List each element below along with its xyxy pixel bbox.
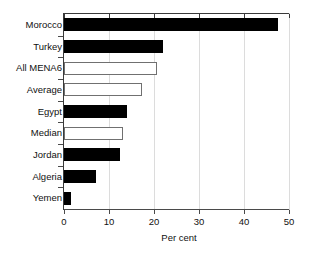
y-tick-left: [58, 57, 63, 58]
category-label-yemen: Yemen: [33, 193, 62, 203]
x-axis-title: Per cent: [0, 232, 310, 243]
y-tick-left: [58, 187, 63, 188]
category-label-egypt: Egypt: [38, 107, 62, 117]
bar-row: [64, 40, 289, 53]
x-tick-bottom: [244, 210, 245, 214]
bar-egypt: [64, 105, 127, 118]
x-tick-bottom: [109, 210, 110, 214]
bar-row: [64, 18, 289, 31]
y-tick-left: [58, 122, 63, 123]
category-label-jordan: Jordan: [33, 150, 62, 160]
category-label-morocco: Morocco: [26, 20, 62, 30]
y-tick-left: [58, 101, 63, 102]
x-tick-top: [64, 14, 65, 18]
bar-algeria: [64, 170, 96, 183]
x-tick-top: [199, 14, 200, 18]
x-axis-title-label: Per cent: [161, 232, 196, 243]
x-tick-label: 10: [94, 216, 124, 227]
x-tick-top: [289, 14, 290, 18]
bar-row: [64, 105, 289, 118]
bar-jordan: [64, 148, 120, 161]
gridline: [289, 14, 290, 209]
x-tick-top: [244, 14, 245, 18]
x-tick-top: [109, 14, 110, 18]
x-tick-bottom: [154, 210, 155, 214]
bar-chart-figure: 01020304050MoroccoTurkeyAll MENA6Average…: [0, 0, 310, 253]
x-tick-label: 0: [49, 216, 79, 227]
category-label-median: Median: [31, 128, 62, 138]
bar-median: [64, 127, 123, 140]
y-tick-left: [58, 144, 63, 145]
x-tick-bottom: [199, 210, 200, 214]
bar-row: [64, 192, 289, 205]
x-tick-top: [154, 14, 155, 18]
bar-morocco: [64, 18, 278, 31]
bar-row: [64, 170, 289, 183]
bar-row: [64, 148, 289, 161]
bar-row: [64, 83, 289, 96]
category-label-all-mena6: All MENA6: [16, 63, 62, 73]
y-tick-left: [58, 36, 63, 37]
plot-area: [64, 14, 289, 209]
y-tick-left: [58, 166, 63, 167]
category-label-average: Average: [27, 85, 62, 95]
x-tick-bottom: [289, 210, 290, 214]
y-tick-left: [58, 79, 63, 80]
bar-row: [64, 127, 289, 140]
bar-average: [64, 83, 142, 96]
axis-line-bottom: [64, 209, 290, 210]
x-tick-label: 40: [229, 216, 259, 227]
x-tick-bottom: [64, 210, 65, 214]
category-label-algeria: Algeria: [32, 172, 62, 182]
category-label-turkey: Turkey: [33, 42, 62, 52]
bar-yemen: [64, 192, 71, 205]
bar-row: [64, 62, 289, 75]
x-tick-label: 30: [184, 216, 214, 227]
bar-turkey: [64, 40, 163, 53]
x-tick-label: 20: [139, 216, 169, 227]
x-tick-label: 50: [274, 216, 304, 227]
bar-all-mena6: [64, 62, 157, 75]
